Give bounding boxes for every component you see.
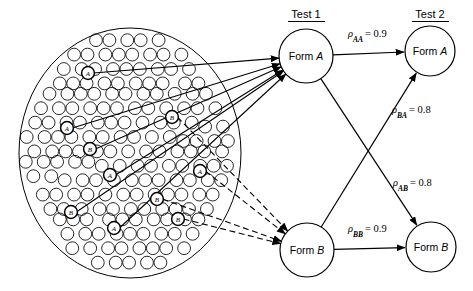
population-dot [35,102,48,115]
sampled-examinee: A [82,67,95,80]
population-dot [119,87,132,100]
correlation-edge-ba [321,73,416,227]
population-dot [44,203,57,216]
population-dot [114,131,127,144]
population-dot [130,188,143,201]
population-dot [102,242,115,255]
population-dot [126,48,139,61]
population-dot [216,145,229,158]
population-dot [46,145,59,158]
sampled-examinee-label: A [197,168,203,176]
sampled-examinee: A [61,122,74,135]
sampling-line-dashed [183,219,280,244]
diagram-canvas: AABABABABB Form AForm BForm AForm B Test… [0,0,473,291]
population-dot [154,256,167,269]
population-dot [28,145,41,158]
population-dot [80,213,93,226]
population-dot [183,203,196,216]
population-dot [74,87,87,100]
sampled-examinee-label: A [64,125,70,133]
sampled-examinee-label: B [155,196,160,204]
population-dot [99,188,112,201]
sampled-examinee-label: B [176,216,181,224]
sampling-line-dashed [205,171,285,234]
population-dot [81,48,94,61]
path-diagram-svg: AABABABABB Form AForm BForm AForm B Test… [0,0,473,291]
population-dot [61,227,74,240]
sampled-examinee: B [172,213,185,226]
population-dot [91,116,104,129]
population-dot [81,188,94,201]
population-dot [137,227,150,240]
population-dot [163,159,176,172]
population-dot [96,131,109,144]
node-t2b[interactable]: Form B [406,222,456,272]
sampled-examinee: A [108,222,121,235]
population-dot [128,131,141,144]
node-t1b[interactable]: Form B [280,223,334,277]
population-dot [117,188,130,201]
population-dot [43,87,56,100]
population-dot [84,102,97,115]
population-dot [184,145,197,158]
population-dot [76,174,89,187]
sampling-line [119,74,285,228]
population-dot [152,174,165,187]
node-label: Form B [414,241,448,253]
population-dot [103,34,116,47]
population-dot [93,203,106,216]
population-dot [112,48,125,61]
population-dot [99,48,112,61]
population-dot [217,120,230,133]
population-dot [79,227,92,240]
population-dot [137,87,150,100]
population-dot [125,174,138,187]
population-dot [136,116,149,129]
population-dot [157,48,170,61]
population-dot [175,188,188,201]
sampled-examinee: A [104,169,117,182]
population-dot [107,203,120,216]
population-dot [221,159,234,172]
population-dot [51,155,64,168]
correlation-edge-bb [334,248,405,250]
sampled-examinee: A [194,165,207,178]
population-dot [53,213,66,226]
population-dot [66,102,79,115]
test2-header: Test 2 [415,8,444,20]
population-dot [19,155,32,168]
population-dot [50,188,63,201]
population-dot [207,159,220,172]
node-label: Form A [413,45,447,57]
population-dot [104,145,117,158]
population-dot [134,34,147,47]
population-dot [68,188,81,201]
population-dot [160,242,173,255]
population-dot [147,213,160,226]
node-t1a[interactable]: Form A [279,29,333,83]
population-dot [66,242,79,255]
population-dot [45,170,58,183]
test1-header: Test 1 [291,8,320,20]
population-dot [27,170,40,183]
population-dot [133,242,146,255]
population-dot [61,87,74,100]
population-dot [37,155,50,168]
population-dot [36,188,49,201]
population-dot [109,256,122,269]
population-dot [121,34,134,47]
node-t2a[interactable]: Form A [405,26,455,76]
correlation-label-bb: ρBB= 0.9 [347,223,387,239]
sampled-examinee: B [166,111,179,124]
population-dot [120,63,133,76]
correlation-edges [321,52,417,249]
population-dot [193,188,206,201]
population-dot [155,227,168,240]
population-dot [122,145,135,158]
population-dot [151,63,164,76]
population-dot [118,116,131,129]
population-dot [58,174,71,187]
population-dot [107,63,120,76]
population-dot [59,145,72,158]
population-dot [146,131,159,144]
